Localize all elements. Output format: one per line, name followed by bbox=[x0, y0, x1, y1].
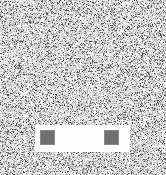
noise-canvas-stage bbox=[0, 0, 166, 175]
left-square-mark[interactable] bbox=[40, 130, 55, 145]
white-band-panel bbox=[35, 125, 130, 152]
right-square-mark[interactable] bbox=[104, 130, 119, 145]
left-square-edge bbox=[40, 130, 55, 145]
right-square-edge bbox=[104, 130, 119, 145]
